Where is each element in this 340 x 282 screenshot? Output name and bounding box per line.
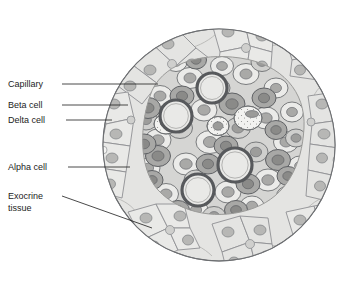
label-delta-cell: Delta cell: [8, 115, 45, 125]
capillary: [160, 100, 192, 132]
acinus: [212, 216, 278, 276]
acinus: [286, 202, 340, 260]
label-exocrine-tissue-line2: tissue: [8, 203, 32, 213]
label-alpha-cell: Alpha cell: [8, 162, 47, 172]
islet-of-langerhans-diagram: Capillary Beta cell Delta cell Alpha cel…: [0, 0, 340, 282]
capillary: [197, 73, 227, 103]
label-group: Capillary Beta cell Delta cell Alpha cel…: [8, 79, 47, 213]
tissue-section: [98, 20, 340, 276]
capillary: [182, 174, 214, 206]
label-beta-cell: Beta cell: [8, 100, 43, 110]
label-capillary: Capillary: [8, 79, 44, 89]
label-exocrine-tissue: Exocrine: [8, 191, 43, 201]
capillary: [218, 148, 252, 182]
